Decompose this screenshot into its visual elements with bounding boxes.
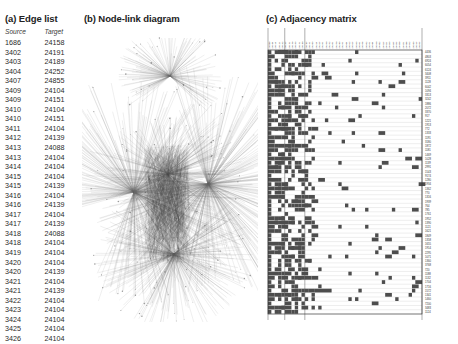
matrix-cell (281, 306, 284, 310)
graph-node (146, 228, 147, 229)
matrix-cell (305, 131, 308, 135)
matrix-cell (268, 93, 275, 97)
matrix-cell (285, 297, 288, 301)
matrix-cell (305, 59, 308, 63)
matrix-cell (268, 267, 271, 271)
matrix-cell (308, 55, 311, 59)
matrix-cell (312, 306, 315, 310)
edge-target-cell: 24855 (35, 76, 77, 86)
graph-node (135, 131, 137, 133)
matrix-cell (305, 221, 312, 225)
matrix-cell (312, 187, 315, 191)
matrix-cell (312, 293, 315, 297)
edge-list-row: 342524104 (5, 324, 77, 334)
matrix-cell (378, 80, 381, 84)
matrix-cell (291, 93, 294, 97)
matrix-row-label: 1621 (425, 229, 431, 233)
edge-list-row: 341424104 (5, 162, 77, 172)
graph-node (235, 198, 236, 199)
graph-node (159, 37, 160, 38)
edge-list-row: 341924104 (5, 248, 77, 258)
graph-node (223, 157, 224, 158)
matrix-cell (278, 123, 281, 127)
graph-node (169, 148, 170, 149)
matrix-cell (312, 238, 315, 242)
graph-node (203, 136, 204, 137)
matrix-cell (285, 259, 288, 263)
matrix-cell (268, 301, 271, 305)
graph-node (186, 269, 187, 270)
matrix-cell (305, 195, 308, 199)
matrix-row-label: 6124 (425, 68, 431, 72)
matrix-cell (295, 97, 298, 101)
matrix-cell (288, 259, 291, 263)
edge-list-row: 342324104 (5, 305, 77, 315)
matrix-cell (301, 72, 304, 76)
graph-node (188, 300, 189, 301)
matrix-cell (325, 76, 332, 80)
matrix-cell (285, 106, 292, 110)
matrix-cell (275, 191, 282, 195)
matrix-cell (399, 80, 406, 84)
matrix-row-label: 720 (425, 268, 430, 272)
graph-node (237, 181, 238, 182)
matrix-cell (275, 50, 288, 54)
graph-node (149, 86, 150, 87)
graph-node (167, 255, 168, 256)
matrix-cell (285, 84, 288, 88)
matrix-cell (278, 272, 281, 276)
matrix-cell (288, 80, 291, 84)
graph-node (240, 269, 241, 270)
matrix-cell (322, 72, 329, 76)
graph-node (235, 272, 236, 273)
matrix-cell (291, 89, 294, 93)
graph-node (157, 46, 158, 47)
matrix-cell (301, 225, 304, 229)
matrix-cell (298, 242, 305, 246)
matrix-row-label: 4803 (425, 55, 431, 59)
matrix-row-label: 1469 (425, 153, 431, 157)
edge-list-row: 341024104 (5, 105, 77, 115)
edge-target-cell: 24088 (35, 143, 77, 153)
edge-target-cell: 24104 (35, 210, 77, 220)
matrix-cell (288, 165, 291, 169)
matrix-cell (291, 169, 294, 173)
matrix-cell (288, 161, 291, 165)
graph-node (130, 230, 132, 232)
graph-node (117, 293, 118, 294)
matrix-cell (412, 289, 415, 293)
matrix-column-label: 24855 (418, 41, 421, 49)
matrix-cell (268, 174, 271, 178)
graph-node (92, 87, 93, 88)
matrix-cell (281, 152, 284, 156)
matrix-cell (365, 225, 368, 229)
edge-list-body: 1686241583402241913403241893404242523407… (5, 38, 77, 344)
matrix-cell (275, 169, 278, 173)
edge-source-cell: 3414 (5, 162, 35, 172)
matrix-cell (278, 280, 281, 284)
matrix-cell (268, 255, 271, 259)
matrix-cell (305, 63, 312, 67)
matrix-cell (372, 101, 379, 105)
matrix-cell (355, 72, 358, 76)
matrix-cell (312, 276, 319, 280)
matrix-cell (275, 59, 278, 63)
edge-source-cell: 3416 (5, 200, 35, 210)
matrix-row-label: 1761 (425, 212, 431, 216)
matrix-cell (298, 127, 301, 131)
matrix-cell (281, 233, 288, 237)
matrix-cell (278, 161, 285, 165)
matrix-cell (268, 152, 271, 156)
matrix-cell (298, 208, 305, 212)
adjacency-matrix-svg: 2408824104241132412124132241392415124158… (266, 26, 454, 324)
matrix-cell (312, 50, 315, 54)
matrix-cell (285, 131, 288, 135)
matrix-cell (412, 165, 419, 169)
matrix-cell (288, 178, 291, 182)
matrix-cell (285, 272, 292, 276)
matrix-cell (305, 101, 308, 105)
matrix-cell (295, 110, 298, 114)
edge-list-row: 341024151 (5, 114, 77, 124)
matrix-cell (295, 276, 305, 280)
